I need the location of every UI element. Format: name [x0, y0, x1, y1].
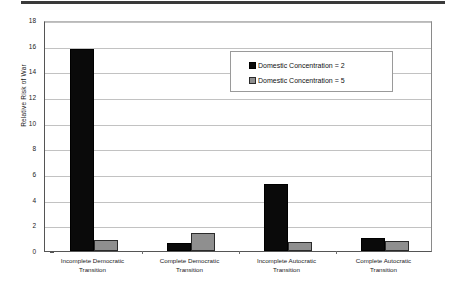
x-axis-tick-label-line: Complete Democratic	[141, 256, 238, 265]
bar-chart-figure: 024681012141618 Relative Risk of War Inc…	[0, 0, 462, 295]
x-axis-tick-label-line: Transition	[141, 265, 238, 274]
gridline	[45, 22, 431, 23]
x-axis-tick-label: Incomplete AutocraticTransition	[238, 256, 335, 274]
legend-item-label: Domestic Concentration = 2	[258, 62, 345, 69]
x-axis-tick-label-line: Transition	[335, 265, 432, 274]
y-axis-tick-label: 4	[10, 197, 36, 204]
x-axis-tick-label-line: Incomplete Democratic	[44, 256, 141, 265]
legend-item: Domestic Concentration = 5	[249, 73, 392, 87]
x-axis-tick-mark	[336, 251, 337, 254]
x-axis-tick-label-line: Transition	[44, 265, 141, 274]
y-axis-tick-label: 18	[10, 18, 36, 25]
x-axis-tick-label: Complete DemocraticTransition	[141, 256, 238, 274]
x-axis-tick-label-line: Incomplete Autocratic	[238, 256, 335, 265]
gray-square-swatch-icon	[249, 77, 256, 84]
gridline	[45, 227, 431, 228]
x-axis-tick-mark	[142, 251, 143, 254]
gridline	[45, 125, 431, 126]
gridline	[45, 99, 431, 100]
legend-item: Domestic Concentration = 2	[249, 58, 392, 72]
y-axis-tick-label: 6	[10, 172, 36, 179]
gridline	[45, 202, 431, 203]
bar	[288, 242, 312, 251]
x-axis-tick-mark	[239, 251, 240, 254]
x-axis-labels: Incomplete DemocraticTransitionComplete …	[44, 256, 432, 288]
y-axis-tick-label: 0	[10, 249, 36, 256]
chart-legend: Domestic Concentration = 2 Domestic Conc…	[230, 51, 393, 92]
y-axis-tick-mark	[50, 252, 54, 253]
x-axis-tick-label: Incomplete DemocraticTransition	[44, 256, 141, 274]
bar	[70, 49, 94, 251]
bar	[361, 238, 385, 251]
bar	[94, 240, 118, 251]
gridline	[45, 150, 431, 151]
y-axis-title: Relative Risk of War	[20, 31, 27, 161]
black-square-swatch-icon	[249, 62, 256, 69]
bar	[191, 233, 215, 251]
bar	[264, 184, 288, 251]
bar	[167, 243, 191, 251]
x-axis-tick-label: Complete AutocraticTransition	[335, 256, 432, 274]
y-axis-tick-label: 2	[10, 223, 36, 230]
x-axis-tick-label-line: Complete Autocratic	[335, 256, 432, 265]
gridline	[45, 176, 431, 177]
legend-item-label: Domestic Concentration = 5	[258, 77, 345, 84]
x-axis-tick-label-line: Transition	[238, 265, 335, 274]
gridline	[45, 48, 431, 49]
bar	[385, 241, 409, 251]
